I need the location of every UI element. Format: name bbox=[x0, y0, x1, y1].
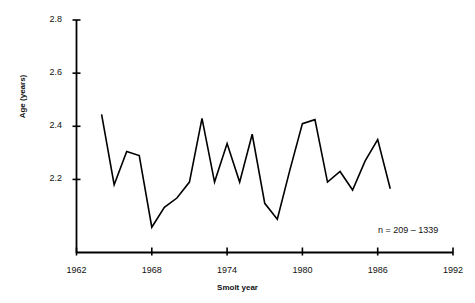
y-tick-label: 2.4 bbox=[28, 120, 62, 130]
line-chart-plot bbox=[0, 0, 475, 303]
x-tick-label: 1962 bbox=[57, 265, 97, 275]
data-line-group bbox=[102, 114, 391, 227]
y-axis-title: Age (years) bbox=[18, 52, 27, 142]
sample-size-annotation: n = 209 – 1339 bbox=[378, 225, 438, 235]
x-tick-label: 1968 bbox=[132, 265, 172, 275]
x-tick-label: 1992 bbox=[433, 265, 473, 275]
axis-lines bbox=[76, 20, 453, 253]
y-tick-label: 2.8 bbox=[28, 14, 62, 24]
x-tick-label: 1974 bbox=[207, 265, 247, 275]
y-tick-label: 2.2 bbox=[28, 173, 62, 183]
chart-figure: Age (years) Smolt year 2.82.62.42.2 1962… bbox=[0, 0, 475, 303]
x-tick-label: 1980 bbox=[282, 265, 322, 275]
x-axis-ticks bbox=[77, 248, 454, 256]
x-tick-label: 1986 bbox=[358, 265, 398, 275]
x-axis-title: Smolt year bbox=[0, 283, 475, 292]
y-tick-label: 2.6 bbox=[28, 67, 62, 77]
